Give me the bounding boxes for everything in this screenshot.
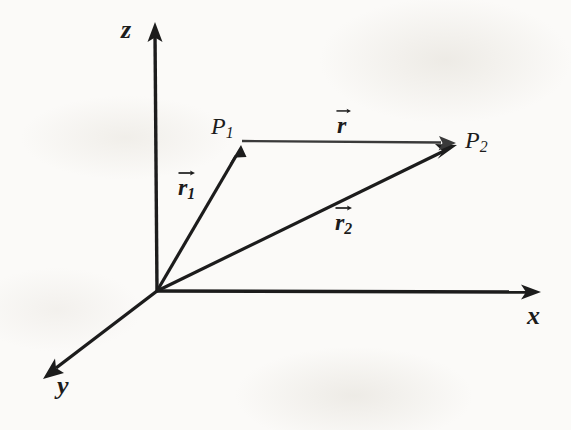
point-label-p1: P1 [211, 114, 234, 141]
axis-y [43, 291, 157, 379]
point-label-p2-base: P [465, 127, 480, 153]
point-label-p1-subscript: 1 [226, 124, 234, 141]
right-arrow-icon [336, 107, 351, 114]
vector-label-r2: r2 [335, 203, 352, 237]
vector-label-r1: r1 [178, 168, 195, 202]
axis-label-y-text: y [57, 371, 69, 400]
vector-r [242, 136, 456, 151]
right-arrow-icon [335, 204, 352, 211]
point-label-p2: P2 [465, 128, 488, 155]
point-label-p1-base: P [211, 113, 226, 139]
vector-label-r-group: r [337, 106, 346, 140]
vector-label-r-base: r [337, 113, 346, 137]
vector-diagram-figure: z x y P1 P2 r1 r2 [0, 0, 571, 430]
vector-label-r2-base: r [335, 210, 344, 234]
right-arrow-icon [178, 169, 195, 176]
axis-z [148, 22, 163, 291]
axis-label-x: x [527, 303, 540, 329]
point-label-p2-subscript: 2 [480, 138, 488, 155]
axis-label-y: y [57, 373, 69, 399]
axis-label-x-text: x [527, 301, 540, 330]
axis-x [157, 285, 541, 300]
vector-label-r1-base: r [178, 175, 187, 199]
vector-label-r: r [337, 106, 346, 140]
vector-label-r2-subscript: 2 [344, 220, 352, 237]
diagram-canvas [0, 0, 571, 430]
vector-label-r1-subscript: 1 [187, 185, 195, 202]
vector-r2 [157, 144, 457, 291]
vector-label-r1-group: r1 [178, 168, 195, 202]
axis-label-z-text: z [121, 15, 131, 44]
axis-label-z: z [121, 17, 131, 43]
vector-label-r2-group: r2 [335, 203, 352, 237]
